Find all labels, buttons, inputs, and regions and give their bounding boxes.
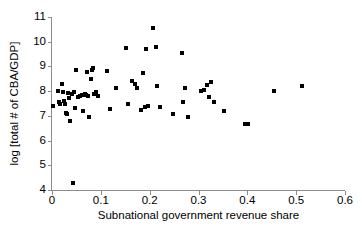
data-point	[68, 119, 72, 123]
data-point	[51, 104, 55, 108]
data-point	[300, 84, 304, 88]
x-tick-label: 0.2	[142, 195, 158, 207]
data-point	[72, 90, 76, 94]
y-tick-label: 10	[33, 36, 46, 48]
data-point	[183, 86, 187, 90]
y-tick-label: 4	[40, 184, 46, 196]
data-point	[135, 86, 139, 90]
y-tick-label: 6	[40, 135, 46, 147]
y-tick	[48, 91, 52, 92]
data-point	[171, 112, 175, 116]
data-point	[61, 90, 65, 94]
data-point	[85, 70, 89, 74]
data-point	[155, 84, 159, 88]
data-point	[96, 94, 100, 98]
data-point	[126, 102, 130, 106]
data-point	[124, 46, 128, 50]
data-point	[63, 102, 67, 106]
scatter-chart-figure: 4567891011 00.10.20.30.40.50.6 Subnation…	[0, 0, 362, 237]
data-point	[180, 51, 184, 55]
data-point	[91, 66, 95, 70]
data-point	[60, 82, 64, 86]
data-point	[246, 122, 250, 126]
y-tick	[48, 42, 52, 43]
y-tick	[48, 116, 52, 117]
x-tick-label: 0.1	[93, 195, 109, 207]
data-point	[181, 100, 185, 104]
data-point	[67, 96, 71, 100]
data-point	[151, 26, 155, 30]
y-tick	[48, 66, 52, 67]
y-tick	[48, 165, 52, 166]
x-tick-label: 0.4	[239, 195, 255, 207]
data-point	[74, 68, 78, 72]
data-point	[108, 107, 112, 111]
plot-area: 4567891011 00.10.20.30.40.50.6	[52, 17, 345, 190]
data-point	[207, 95, 211, 99]
data-point	[186, 115, 190, 119]
data-point	[212, 100, 216, 104]
data-point	[105, 69, 109, 73]
x-axis-title: Subnational government revenue share	[52, 210, 345, 222]
x-tick-label: 0.5	[288, 195, 304, 207]
data-point	[89, 77, 93, 81]
data-point	[144, 47, 148, 51]
x-tick-label: 0	[49, 195, 55, 207]
y-tick-label: 11	[34, 11, 46, 23]
data-point	[202, 88, 206, 92]
y-tick-label: 9	[40, 61, 46, 73]
data-point	[154, 45, 158, 49]
x-tick-label: 0.3	[191, 195, 207, 207]
data-point	[71, 181, 75, 185]
data-point	[158, 105, 162, 109]
data-point	[87, 115, 91, 119]
data-point	[209, 80, 213, 84]
data-point	[65, 112, 69, 116]
data-point	[86, 94, 90, 98]
data-point	[114, 86, 118, 90]
y-tick-label: 7	[40, 110, 46, 122]
data-point	[272, 89, 276, 93]
data-point	[222, 109, 226, 113]
y-tick	[48, 141, 52, 142]
y-axis-title: log [total # of CBA/GDP]	[9, 17, 23, 190]
data-point	[146, 104, 150, 108]
data-point	[141, 71, 145, 75]
y-tick-label: 8	[40, 85, 46, 97]
y-tick	[48, 17, 52, 18]
data-point	[81, 109, 85, 113]
y-tick-label: 5	[40, 160, 46, 172]
data-point	[73, 106, 77, 110]
data-point	[56, 89, 60, 93]
x-tick-label: 0.6	[337, 195, 353, 207]
